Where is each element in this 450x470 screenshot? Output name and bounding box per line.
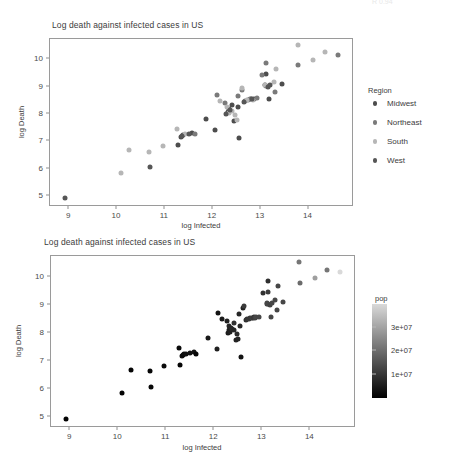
x-tick-label: 10: [113, 432, 122, 441]
data-point: [273, 297, 278, 302]
data-point: [128, 367, 133, 372]
data-point: [236, 105, 241, 110]
legend-item-midwest[interactable]: Midwest: [368, 99, 416, 108]
legend-item-south[interactable]: South: [368, 137, 408, 146]
y-tick-mark: [47, 275, 50, 276]
x-tick-label: 14: [303, 211, 312, 220]
legend-key-swatch: [368, 101, 382, 106]
x-tick-label: 9: [67, 432, 71, 441]
data-point: [232, 321, 237, 326]
colorbar-gradient[interactable]: [372, 304, 387, 398]
y-tick-mark: [47, 387, 50, 388]
data-point: [268, 83, 273, 88]
x-tick-mark: [211, 206, 212, 209]
x-tick-label: 9: [66, 211, 70, 220]
data-point: [237, 323, 242, 328]
x-tick-mark: [259, 206, 260, 209]
data-point: [186, 132, 191, 137]
colorbar-tick-label: 2e+07: [391, 346, 412, 355]
x-tick-label: 13: [255, 211, 264, 220]
x-tick-mark: [117, 427, 118, 430]
plot-panel-pop: [50, 255, 355, 427]
x-tick-mark: [213, 427, 214, 430]
scatter-points-pop: [51, 256, 354, 426]
data-point: [273, 89, 278, 94]
y-tick-label: 9: [24, 299, 44, 308]
y-tick-mark: [47, 359, 50, 360]
y-tick-label: 10: [24, 271, 44, 280]
data-point: [281, 300, 286, 305]
legend-item-west[interactable]: West: [368, 156, 405, 165]
y-axis-title-region: log Death: [17, 106, 26, 138]
data-point: [274, 307, 279, 312]
data-point: [228, 108, 233, 113]
data-point: [214, 93, 219, 98]
x-tick-label: 12: [209, 432, 218, 441]
data-point: [323, 50, 328, 55]
legend-item-label: Midwest: [387, 99, 416, 108]
data-point: [236, 336, 241, 341]
y-tick-mark: [47, 303, 50, 304]
plot-panel-region: [49, 38, 353, 206]
data-point: [192, 132, 197, 137]
data-point: [237, 135, 242, 140]
data-point: [259, 73, 264, 78]
legend-key-swatch: [368, 120, 382, 125]
data-point: [118, 170, 123, 175]
data-point: [216, 311, 221, 316]
data-point: [194, 351, 199, 356]
data-point: [265, 278, 270, 283]
y-tick-mark: [46, 140, 49, 141]
colorbar-tick-label: 3e+07: [391, 322, 412, 331]
data-point: [264, 71, 269, 76]
chart-region: R 0.94 Log death against infected cases …: [0, 0, 450, 235]
data-point: [266, 96, 271, 101]
data-point: [266, 289, 271, 294]
data-point: [238, 354, 243, 359]
scatter-points-region: [50, 39, 352, 205]
data-point: [295, 62, 300, 67]
data-point: [336, 52, 341, 57]
data-point: [176, 142, 181, 147]
data-point: [120, 390, 125, 395]
y-tick-label: 10: [23, 54, 43, 63]
x-tick-mark: [68, 206, 69, 209]
y-tick-label: 6: [24, 383, 44, 392]
legend-item-label: West: [387, 156, 405, 165]
legend-dot-icon: [373, 101, 378, 106]
colorbar-tick-mark: [372, 374, 376, 375]
x-axis-title-pop: log Infected: [183, 443, 222, 452]
legend-item-northeast[interactable]: Northeast: [368, 118, 422, 127]
legend-title-region: Region: [368, 86, 392, 95]
data-point: [295, 43, 300, 48]
data-point: [230, 102, 235, 107]
data-point: [204, 117, 209, 122]
legend-item-label: Northeast: [387, 118, 422, 127]
y-tick-label: 7: [24, 355, 44, 364]
legend-dot-icon: [373, 120, 378, 125]
y-tick-mark: [46, 58, 49, 59]
data-point: [177, 362, 182, 367]
legend-title-pop: pop: [375, 294, 388, 303]
data-point: [338, 270, 343, 275]
x-tick-mark: [116, 206, 117, 209]
y-tick-mark: [46, 167, 49, 168]
data-point: [64, 416, 69, 421]
data-point: [161, 363, 166, 368]
x-tick-mark: [69, 427, 70, 430]
y-tick-mark: [47, 415, 50, 416]
x-tick-mark: [307, 206, 308, 209]
x-tick-mark: [163, 206, 164, 209]
y-tick-label: 6: [23, 163, 43, 172]
x-tick-mark: [165, 427, 166, 430]
x-tick-label: 13: [257, 432, 266, 441]
y-tick-mark: [46, 195, 49, 196]
x-tick-label: 11: [161, 432, 169, 441]
data-point: [240, 86, 245, 91]
y-tick-label: 9: [23, 81, 43, 90]
data-point: [268, 315, 273, 320]
y-tick-label: 7: [23, 136, 43, 145]
data-point: [148, 369, 153, 374]
y-tick-label: 5: [24, 411, 44, 420]
data-point: [234, 117, 239, 122]
